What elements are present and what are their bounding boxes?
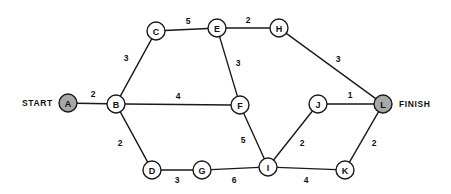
edge-c-e xyxy=(165,28,208,30)
edge-i-k xyxy=(277,167,336,169)
finish-label: FINISH xyxy=(399,99,430,109)
node-g[interactable]: G xyxy=(193,161,211,179)
node-k[interactable]: K xyxy=(336,161,354,179)
edge-weight-a-b: 2 xyxy=(91,89,96,99)
edge-weight-e-h: 2 xyxy=(246,15,251,25)
edge-weight-g-i: 6 xyxy=(232,175,237,185)
edge-weight-j-l: 1 xyxy=(348,90,353,100)
node-label-g: G xyxy=(198,166,205,176)
network-diagram: 234252335362412 ABCDEFGHIJKL START FINIS… xyxy=(0,0,451,194)
edge-i-j xyxy=(274,111,313,160)
node-label-c: C xyxy=(153,27,160,37)
edge-b-c xyxy=(120,39,151,96)
edge-k-l xyxy=(349,112,378,162)
node-label-f: F xyxy=(237,101,243,111)
edge-h-l xyxy=(286,33,375,98)
graph-canvas: 234252335362412 ABCDEFGHIJKL START FINIS… xyxy=(0,0,451,194)
node-label-d: D xyxy=(149,166,156,176)
node-label-l: L xyxy=(380,100,386,110)
node-f[interactable]: F xyxy=(231,96,249,114)
edge-weight-b-d: 2 xyxy=(118,138,123,148)
edge-weight-f-i: 5 xyxy=(241,135,246,145)
edge-weight-b-f: 4 xyxy=(176,91,181,101)
edge-weight-b-c: 3 xyxy=(124,53,129,63)
node-label-a: A xyxy=(65,99,72,109)
edge-b-f xyxy=(125,104,231,105)
edge-g-i xyxy=(211,167,259,169)
node-a[interactable]: A xyxy=(59,94,77,112)
edge-weight-i-j: 2 xyxy=(300,138,305,148)
node-d[interactable]: D xyxy=(143,161,161,179)
node-l[interactable]: L xyxy=(374,95,392,113)
node-h[interactable]: H xyxy=(270,19,288,37)
node-label-e: E xyxy=(214,24,220,34)
node-c[interactable]: C xyxy=(147,22,165,40)
node-label-k: K xyxy=(342,166,349,176)
node-label-j: J xyxy=(315,100,320,110)
node-label-h: H xyxy=(276,24,283,34)
edge-f-i xyxy=(244,113,265,159)
node-label-b: B xyxy=(113,100,120,110)
edge-weight-c-e: 5 xyxy=(186,16,191,26)
edge-weight-e-f: 3 xyxy=(236,58,241,68)
node-label-i: I xyxy=(267,163,270,173)
edge-weight-h-l: 3 xyxy=(336,54,341,64)
nodes-layer: ABCDEFGHIJKL xyxy=(59,19,392,179)
edge-a-b xyxy=(77,103,107,104)
edge-weight-i-k: 4 xyxy=(304,175,309,185)
node-i[interactable]: I xyxy=(259,158,277,176)
edge-b-d xyxy=(120,112,147,162)
node-e[interactable]: E xyxy=(208,19,226,37)
start-label: START xyxy=(22,98,53,108)
edge-weight-k-l: 2 xyxy=(372,138,377,148)
node-b[interactable]: B xyxy=(107,95,125,113)
node-j[interactable]: J xyxy=(309,95,327,113)
edge-weight-d-g: 3 xyxy=(175,175,180,185)
